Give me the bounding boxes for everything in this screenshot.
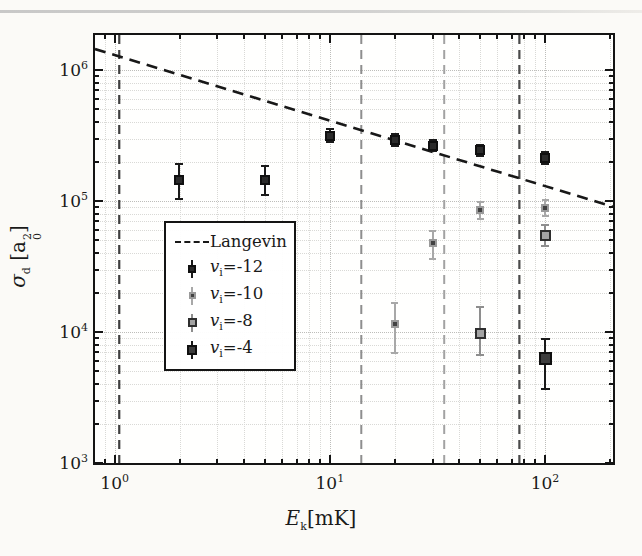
y-minor-tick (609, 292, 613, 294)
data-point-vi=-10 (476, 206, 484, 214)
errorbar-cap-vi=-8 (476, 354, 484, 356)
marker-swatch-vi=-12 (174, 265, 210, 273)
y-tick-label-10e4: 104 (59, 321, 88, 342)
y-minor-tick (95, 351, 99, 353)
legend-item-vi=-12: vi=-12 (174, 255, 288, 282)
legend-label-vi=-8: vi=-8 (210, 311, 253, 333)
y-minor-tick (95, 292, 99, 294)
y-minor-tick (609, 351, 613, 353)
data-point-vi=-12 (390, 135, 400, 145)
page-scan-artifact-line (0, 10, 642, 13)
data-point-vi=-8 (475, 328, 486, 339)
y-minor-tick (95, 108, 99, 110)
errorbar-cap-vi=-8 (541, 245, 549, 247)
y-minor-tick (95, 98, 99, 100)
x-minor-tick (296, 35, 298, 39)
x-axis-label: Ek[mK] (0, 506, 642, 533)
swatch-square (188, 318, 197, 327)
x-tick-label-10e1: 101 (300, 472, 360, 493)
x-minor-tick (458, 35, 460, 39)
y-major-tick (95, 331, 103, 333)
y-minor-tick (609, 89, 613, 91)
x-minor-tick (179, 459, 181, 463)
x-minor-tick (523, 35, 525, 39)
legend-label: Langevin (210, 232, 287, 251)
y-tick-label-10e3: 103 (59, 452, 88, 473)
x-minor-tick (523, 459, 525, 463)
errorbar-cap-vi=-10 (542, 199, 549, 201)
x-minor-tick (308, 35, 310, 39)
errorbar-cap-vi=-12 (391, 145, 399, 147)
figure: Langevinvi=-12vi=-10vi=-8vi=-4 103104105… (0, 0, 642, 556)
marker-swatch-vi=-10 (174, 292, 210, 299)
swatch-square (187, 345, 197, 355)
y-minor-tick (95, 400, 99, 402)
x-major-tick (544, 455, 546, 463)
marker-swatch-vi=-4 (174, 345, 210, 355)
x-minor-tick (243, 459, 245, 463)
x-minor-tick (458, 459, 460, 463)
y-minor-tick (609, 98, 613, 100)
y-minor-tick (609, 337, 613, 339)
y-minor-tick (609, 252, 613, 254)
x-major-tick (114, 455, 116, 463)
x-minor-tick (216, 35, 218, 39)
y-major-tick (95, 69, 103, 71)
y-minor-tick (609, 220, 613, 222)
data-point-vi=-10 (429, 239, 437, 247)
x-minor-tick (496, 459, 498, 463)
y-major-tick (605, 200, 613, 202)
errorbar-cap-vi=-4 (541, 338, 550, 340)
y-major-gridline (95, 463, 613, 464)
y-major-tick (605, 69, 613, 71)
x-minor-tick (511, 459, 513, 463)
x-minor-tick (281, 459, 283, 463)
errorbar-cap-vi=-10 (391, 302, 398, 304)
errorbar-cap-vi=-12 (175, 198, 183, 200)
x-minor-tick (534, 35, 536, 39)
x-minor-tick (308, 459, 310, 463)
legend-item-vi=-10: vi=-10 (174, 282, 288, 309)
langevin-line (95, 49, 613, 207)
x-major-tick (329, 35, 331, 43)
x-minor-tick (319, 35, 321, 39)
errorbar-vi=-10 (394, 303, 396, 353)
x-major-tick (329, 455, 331, 463)
y-minor-tick (609, 344, 613, 346)
x-major-tick (544, 35, 546, 43)
errorbar-cap-vi=-10 (477, 201, 484, 203)
y-minor-tick (95, 360, 99, 362)
langevin-dash-swatch (174, 241, 210, 243)
y-minor-tick (609, 269, 613, 271)
y-minor-tick (95, 121, 99, 123)
errorbar-cap-vi=-10 (542, 215, 549, 217)
y-minor-tick (609, 423, 613, 425)
y-minor-tick (95, 337, 99, 339)
x-minor-tick (264, 459, 266, 463)
y-minor-tick (95, 138, 99, 140)
x-minor-tick (281, 35, 283, 39)
y-minor-tick (95, 383, 99, 385)
data-point-vi=-12 (174, 175, 184, 185)
y-axis-label: σd [a20] (6, 147, 43, 367)
y-minor-tick (95, 82, 99, 84)
y-minor-tick (609, 82, 613, 84)
x-minor-tick (432, 35, 434, 39)
legend-item-vi=-8: vi=-8 (174, 309, 288, 336)
errorbar-cap-vi=-10 (391, 352, 398, 354)
x-minor-tick (243, 35, 245, 39)
data-point-vi=-8 (540, 230, 551, 241)
y-minor-tick (609, 161, 613, 163)
y-tick-label-10e6: 106 (59, 59, 88, 80)
errorbar-cap-vi=-10 (429, 258, 436, 260)
x-minor-tick (104, 35, 106, 39)
y-tick-label-10e5: 105 (59, 190, 88, 211)
legend-item-langevin: Langevin (174, 228, 288, 255)
y-minor-tick (95, 423, 99, 425)
errorbar-cap-vi=-8 (476, 306, 484, 308)
errorbar-cap-vi=-12 (541, 163, 549, 165)
legend-label-vi=-12: vi=-12 (210, 257, 263, 279)
y-minor-tick (609, 360, 613, 362)
y-minor-tick (609, 138, 613, 140)
x-minor-tick (104, 459, 106, 463)
